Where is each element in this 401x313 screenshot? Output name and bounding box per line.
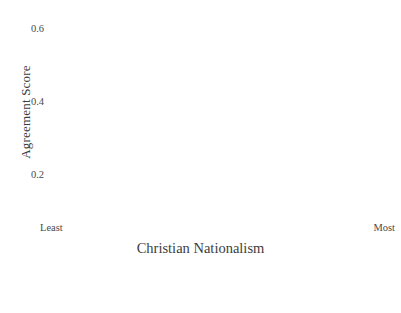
y-axis-title: Agreement Score (18, 32, 34, 192)
chart-figure: 0.20.40.6 Agreement Score Least Most Chr… (0, 0, 401, 313)
chart-legend (0, 272, 401, 313)
plot-area (0, 0, 401, 313)
x-axis-tick-most: Most (373, 222, 395, 233)
x-axis-title: Christian Nationalism (0, 240, 401, 257)
x-axis-tick-least: Least (40, 222, 63, 233)
